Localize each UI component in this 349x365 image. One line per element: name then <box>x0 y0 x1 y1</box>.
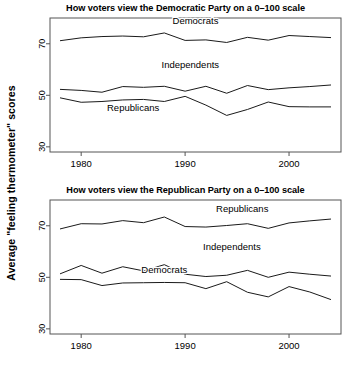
y-tick-label: 70 <box>37 221 47 231</box>
y-tick-label: 70 <box>37 39 47 49</box>
series-line-independents <box>60 265 330 278</box>
series-label-democrats: Democrats <box>173 15 219 26</box>
series-line-democrats <box>60 33 330 43</box>
series-label-democrats: Democrats <box>141 264 187 275</box>
y-tick-label: 30 <box>37 324 47 334</box>
x-tick-label: 2000 <box>278 158 299 169</box>
series-label-republicans: Republicans <box>107 102 160 113</box>
y-tick-label: 30 <box>37 142 47 152</box>
y-tick-label: 50 <box>37 272 47 282</box>
y-axis-label-container: Average "feeling thermometer" scores <box>0 0 22 365</box>
x-tick-label: 1980 <box>71 340 92 351</box>
series-line-democrats <box>60 279 330 299</box>
series-line-republicans <box>60 96 330 115</box>
y-tick-label: 50 <box>37 90 47 100</box>
x-tick-label: 1980 <box>71 158 92 169</box>
democratic-party-plot: 305070198019902000DemocratsIndependentsR… <box>22 0 349 183</box>
x-tick-label: 2000 <box>278 340 299 351</box>
series-label-republicans: Republicans <box>216 203 269 214</box>
series-line-republicans <box>60 217 330 229</box>
series-label-independents: Independents <box>162 59 220 70</box>
figure: Average "feeling thermometer" scores How… <box>0 0 349 365</box>
plot-frame <box>50 200 341 334</box>
plot-frame <box>50 18 341 152</box>
x-tick-label: 1990 <box>175 158 196 169</box>
x-tick-label: 1990 <box>175 340 196 351</box>
republican-party-plot: 305070198019902000RepublicansIndependent… <box>22 182 349 365</box>
republican-party-panel: How voters view the Republican Party on … <box>22 182 349 365</box>
democratic-party-panel: How voters view the Democratic Party on … <box>22 0 349 182</box>
y-axis-label: Average "feeling thermometer" scores <box>5 85 17 280</box>
series-line-independents <box>60 85 330 93</box>
series-label-independents: Independents <box>203 241 261 252</box>
